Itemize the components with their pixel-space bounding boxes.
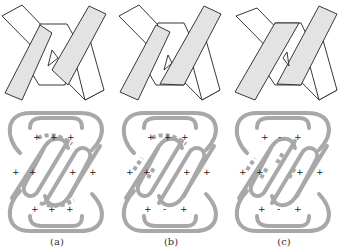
sign: + xyxy=(147,132,155,142)
sign: + xyxy=(143,167,151,177)
sign: + xyxy=(239,167,247,177)
sign: + xyxy=(144,204,152,214)
sign: + xyxy=(183,167,191,177)
sign: + xyxy=(33,132,41,142)
panel-c: + - + + + + + + - + (c) xyxy=(227,0,341,252)
sign: + xyxy=(69,167,77,177)
knot-diagram-a: + + + + + + + + + + xyxy=(0,108,114,236)
sign: + xyxy=(67,132,75,142)
sign: + xyxy=(261,132,269,142)
sign: + xyxy=(50,132,58,142)
ribbon-surface-diagram-b xyxy=(114,0,228,108)
sign: + xyxy=(180,204,188,214)
sign: + xyxy=(31,204,39,214)
knot-diagram-b: + + + + + + + + - + xyxy=(114,108,228,236)
panel-b: + + + + + + + + - + (b) xyxy=(114,0,228,252)
sign: + xyxy=(316,167,324,177)
sign: + xyxy=(164,132,172,142)
sign: + xyxy=(12,167,20,177)
caption-a: (a) xyxy=(0,236,114,247)
sign: + xyxy=(48,204,56,214)
sign: - xyxy=(278,132,281,142)
sign: + xyxy=(89,167,97,177)
sign: + xyxy=(29,167,37,177)
sign: + xyxy=(181,132,189,142)
sign: + xyxy=(256,167,264,177)
caption-b: (b) xyxy=(114,236,228,247)
sign: - xyxy=(277,204,280,214)
sign: + xyxy=(203,167,211,177)
sign: + xyxy=(294,132,302,142)
sign: + xyxy=(294,204,302,214)
sign: + xyxy=(126,167,134,177)
sign: + xyxy=(296,167,304,177)
ribbon-surface-diagram-a xyxy=(0,0,114,108)
ribbon-surface-diagram-c xyxy=(227,0,341,108)
sign: + xyxy=(258,204,266,214)
caption-c: (c) xyxy=(227,236,341,247)
knot-diagram-c: + - + + + + + + - + xyxy=(227,108,341,236)
panel-a: + + + + + + + + + + (a) xyxy=(0,0,114,252)
sign: - xyxy=(163,204,166,214)
sign: + xyxy=(66,204,74,214)
